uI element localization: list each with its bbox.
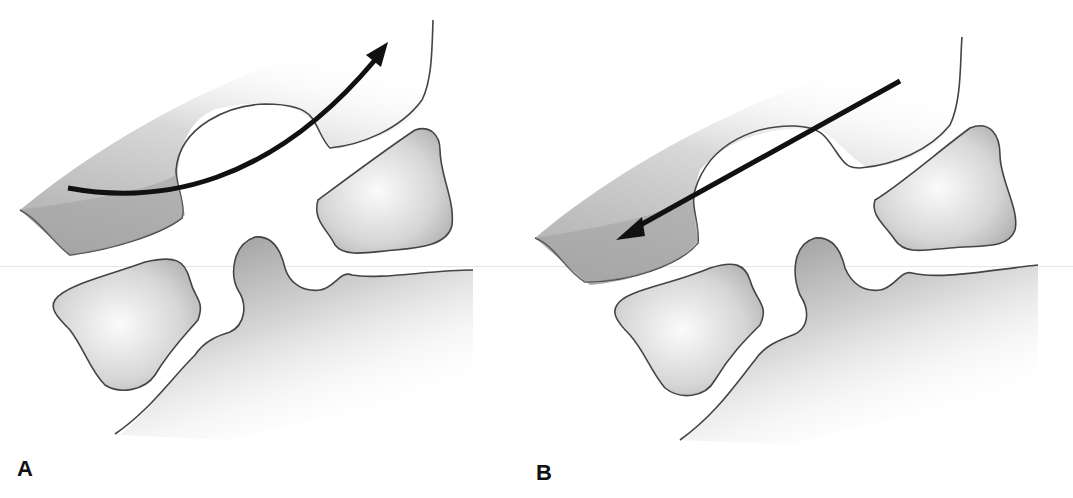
panel-b: B	[530, 0, 1073, 498]
panel-label-b: B	[536, 460, 552, 486]
bone-lower-left	[615, 264, 764, 395]
panel-label-a: A	[17, 456, 33, 482]
panel-a: A	[0, 0, 540, 498]
panel-b-illustration	[530, 0, 1073, 498]
panel-a-illustration	[0, 0, 540, 498]
bone-lower-left	[53, 259, 200, 390]
